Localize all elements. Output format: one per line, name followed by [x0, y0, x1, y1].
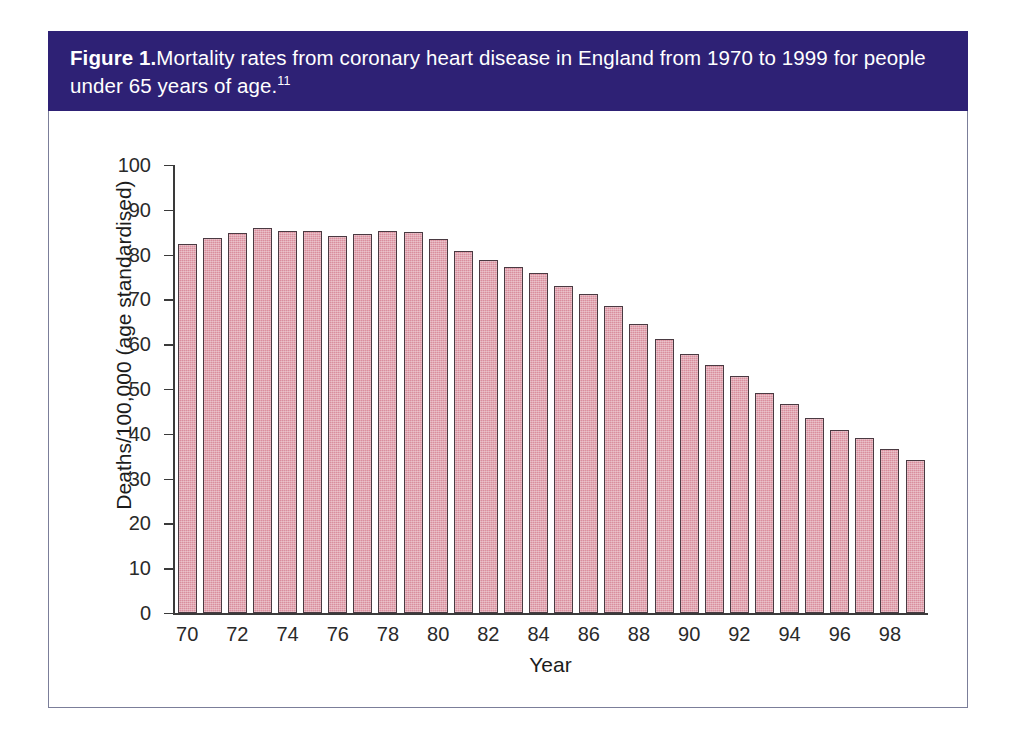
x-axis-line	[173, 613, 928, 615]
bar	[378, 231, 397, 613]
bar	[328, 236, 347, 613]
y-tick-mark: 0	[164, 613, 173, 614]
y-tick-mark: 70	[164, 299, 173, 300]
y-tick-mark: 90	[164, 210, 173, 211]
bar	[203, 238, 222, 613]
bar	[579, 294, 598, 613]
bar-series	[175, 165, 928, 613]
x-tick-label: 80	[427, 623, 449, 646]
y-tick-mark: 100	[164, 165, 173, 166]
bar	[178, 244, 197, 613]
figure-caption-text: Figure 1.Mortality rates from coronary h…	[70, 44, 946, 100]
y-tick-label: 10	[129, 557, 151, 580]
y-tick-label: 60	[129, 333, 151, 356]
y-tick-mark: 50	[164, 389, 173, 390]
bar	[906, 460, 925, 613]
y-tick-mark: 10	[164, 568, 173, 569]
y-tick-label: 90	[129, 198, 151, 221]
x-tick-label: 92	[728, 623, 750, 646]
x-tick-label: 70	[176, 623, 198, 646]
bar	[830, 430, 849, 613]
x-tick-label: 96	[829, 623, 851, 646]
bar	[504, 267, 523, 613]
bar	[629, 324, 648, 613]
bar	[780, 404, 799, 613]
y-tick-mark: 40	[164, 434, 173, 435]
x-tick-label: 88	[628, 623, 650, 646]
x-tick-label: 98	[879, 623, 901, 646]
bar	[454, 251, 473, 613]
y-tick-mark: 20	[164, 523, 173, 524]
y-tick-label: 50	[129, 378, 151, 401]
bar	[228, 233, 247, 613]
x-tick-label: 74	[276, 623, 298, 646]
y-tick-mark: 80	[164, 255, 173, 256]
x-tick-label: 84	[527, 623, 549, 646]
y-tick-label: 100	[118, 154, 151, 177]
bar	[353, 234, 372, 613]
x-tick-label: 86	[578, 623, 600, 646]
bar	[855, 438, 874, 613]
bar	[429, 239, 448, 613]
y-tick-label: 70	[129, 288, 151, 311]
bar	[479, 260, 498, 613]
bar	[278, 231, 297, 613]
bar	[253, 228, 272, 613]
bar	[404, 232, 423, 613]
chart-plot-area: Deaths/100,000 (age standardised) 010203…	[48, 111, 968, 708]
figure-number-label: Figure 1.	[70, 46, 156, 69]
y-tick-label: 0	[140, 602, 151, 625]
x-tick-label: 78	[377, 623, 399, 646]
x-tick-label: 94	[778, 623, 800, 646]
y-tick-label: 40	[129, 422, 151, 445]
y-tick-label: 80	[129, 243, 151, 266]
bar	[805, 418, 824, 613]
y-tick-mark: 60	[164, 344, 173, 345]
x-tick-label: 90	[678, 623, 700, 646]
bar	[680, 354, 699, 613]
bar	[755, 393, 774, 613]
bar	[529, 273, 548, 613]
x-tick-label: 76	[327, 623, 349, 646]
figure-reference-superscript: 11	[277, 74, 290, 88]
bar	[880, 449, 899, 613]
bar	[705, 365, 724, 613]
bar	[730, 376, 749, 613]
y-tick-label: 20	[129, 512, 151, 535]
figure-caption-body: Mortality rates from coronary heart dise…	[70, 46, 926, 97]
bar	[655, 339, 674, 613]
figure-caption-banner: Figure 1.Mortality rates from coronary h…	[48, 31, 968, 111]
bar	[604, 306, 623, 613]
bar	[554, 286, 573, 613]
x-axis-title: Year	[173, 653, 928, 677]
y-tick-label: 30	[129, 467, 151, 490]
chart-axes: 0102030405060708090100 70727476788082848…	[173, 165, 928, 613]
y-tick-mark: 30	[164, 479, 173, 480]
x-tick-label: 72	[226, 623, 248, 646]
x-tick-label: 82	[477, 623, 499, 646]
bar	[303, 231, 322, 613]
